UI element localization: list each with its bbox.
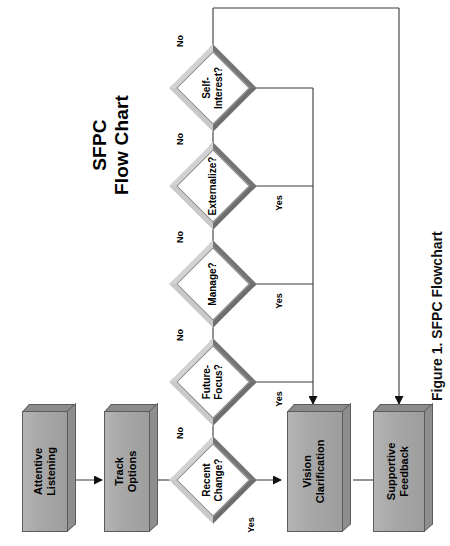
edge-label-manage-no: No [175, 231, 185, 243]
edge-label-externalize-no: No [175, 133, 185, 145]
decision-manage[interactable]: Manage? [169, 240, 257, 328]
edge-label-externalize-yes: Yes [274, 195, 284, 211]
process-label-line-2: Clarification [315, 440, 327, 504]
process-label-line-2: Feedback [399, 446, 411, 497]
edge-label-recent-change-no: No [175, 427, 185, 439]
decision-label-line-2: Focus? [213, 364, 224, 400]
edge-label-future-focus-yes: Yes [274, 391, 284, 407]
box-side-face [67, 403, 76, 532]
process-label: Vision Clarification [287, 411, 343, 532]
box-side-face [342, 403, 351, 532]
page-title: SFPC Flow Chart [76, 50, 146, 240]
edge-label-self-interest-no: No [175, 35, 185, 47]
process-label-line-2: Options [127, 451, 139, 493]
decision-label: Future- Focus? [169, 338, 257, 426]
process-label: Track Options [104, 411, 150, 532]
decision-label-line-1: Recent [201, 463, 212, 496]
title-line-1: SFPC [89, 119, 111, 170]
process-label-line-1: Attentive [32, 448, 44, 495]
decision-future-focus[interactable]: Future- Focus? [169, 338, 257, 426]
process-supportive-feedback[interactable]: Supportive Feedback [373, 404, 425, 532]
decision-externalize[interactable]: Externalize? [169, 142, 257, 230]
box-side-face [424, 403, 433, 532]
edge-label-future-focus-no: No [175, 329, 185, 341]
title-line-2: Flow Chart [111, 95, 133, 195]
process-track-options[interactable]: Track Options [104, 404, 150, 532]
decision-label: Recent Change? [169, 436, 257, 524]
decision-label-line-1: Externalize? [207, 157, 218, 216]
process-label-line-2: Listening [45, 447, 57, 496]
decision-recent-change[interactable]: Recent Change? [169, 436, 257, 524]
decision-label-line-2: Interest? [213, 67, 224, 109]
process-attentive-listening[interactable]: Attentive Listening [22, 404, 68, 532]
decision-label-line-1: Self- [201, 77, 212, 99]
process-label-line-1: Supportive [386, 443, 398, 500]
decision-label: Manage? [169, 240, 257, 328]
process-vision-clarification[interactable]: Vision Clarification [287, 404, 343, 532]
decision-label: Externalize? [169, 142, 257, 230]
decision-label-line-1: Future- [201, 365, 212, 399]
box-side-face [149, 403, 158, 532]
decision-label-line-1: Manage? [207, 262, 218, 305]
decision-label-line-2: Change? [213, 459, 224, 502]
decision-self-interest[interactable]: Self- Interest? [169, 44, 257, 132]
process-label: Attentive Listening [22, 411, 68, 532]
process-label-line-1: Track [114, 457, 126, 486]
edge-label-recent-change-yes: Yes [246, 517, 256, 533]
decision-label: Self- Interest? [169, 44, 257, 132]
process-label-line-1: Vision [302, 455, 314, 488]
edge-label-manage-yes: Yes [274, 293, 284, 309]
process-label: Supportive Feedback [373, 411, 425, 532]
figure-caption: Figure 1. SFPC Flowchart [429, 221, 450, 401]
